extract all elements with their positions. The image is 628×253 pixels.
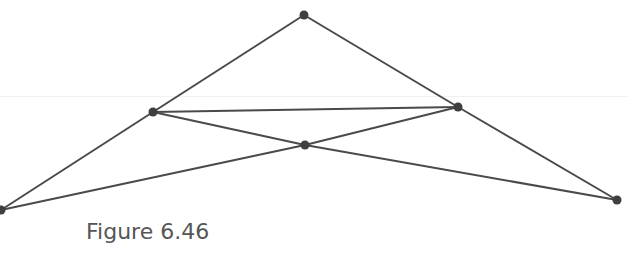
segment-center-right-mid — [305, 107, 458, 145]
point-right-mid — [454, 103, 463, 112]
segment-apex-right-mid — [304, 15, 458, 107]
segment-left-mid-right-mid — [153, 107, 458, 112]
segment-left-mid-bottom-left — [1, 112, 153, 210]
point-bottom-right — [613, 196, 622, 205]
point-left-mid — [149, 108, 158, 117]
figure-caption: Figure 6.46 — [86, 219, 209, 244]
segment-bottom-left-center — [1, 145, 305, 210]
point-center — [301, 141, 310, 150]
diagram-segments — [1, 15, 617, 210]
segment-left-mid-center — [153, 112, 305, 145]
geometry-diagram — [0, 0, 628, 253]
point-apex — [300, 11, 309, 20]
segment-apex-left-mid — [153, 15, 304, 112]
